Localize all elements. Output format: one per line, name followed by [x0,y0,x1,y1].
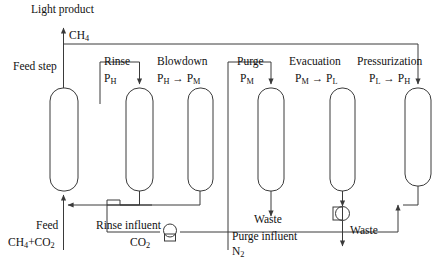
label-rinse-pressure: PH [104,72,116,87]
label-pressurization-pressure: PL → PH [369,72,410,87]
process-flow-diagram: Light product CH4 Feed step Rinse PH Blo… [0,0,434,262]
vessel-purge [258,88,284,191]
blowdown-bottom-leg [107,191,200,205]
label-feed-step: Feed step [13,60,57,72]
label-blowdown: Blowdown [157,55,207,67]
vessel-pressurization [405,88,431,186]
diagram-canvas [0,0,434,262]
pressurization-bottom-leg [403,186,418,205]
rinse-pump-body [164,224,177,237]
label-rinse-influent: Rinse influent [96,219,161,231]
label-waste-purge: Waste [254,213,282,225]
label-light-product: Light product [31,3,94,15]
label-rinse-influent-species: CO2 [130,236,150,251]
label-waste-evacuation: Waste [350,224,378,236]
label-evacuation-pressure: PM → PL [295,72,337,87]
label-feed-composition: CH4+CO2 [8,236,55,251]
label-blowdown-pressure: PH → PM [157,72,200,87]
label-ch4: CH4 [69,29,89,44]
vessel-evacuation [330,88,355,191]
label-evacuation: Evacuation [289,55,341,67]
line-hop-bridge [107,200,120,205]
label-purge: Purge [237,55,264,67]
label-pressurization: Pressurization [357,55,422,67]
label-purge-influent-species: N2 [232,245,244,260]
label-rinse: Rinse [104,55,130,67]
label-purge-pressure: PM [240,72,254,87]
vessel-rinse [126,88,153,191]
vessel-feed [50,88,78,191]
vessel-blowdown [188,88,213,191]
label-feed: Feed [36,219,58,231]
label-purge-influent: Purge influent [232,230,297,242]
rinse-bottom-leg [120,191,140,205]
